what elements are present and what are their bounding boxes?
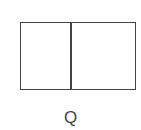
figure-label: Q	[0, 108, 141, 128]
divider-line	[70, 23, 72, 89]
divided-rectangle	[20, 22, 136, 90]
